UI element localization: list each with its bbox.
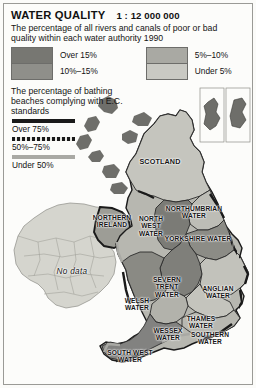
swatch-over-15 bbox=[12, 48, 52, 63]
legend-label-10-15: 10%–15% bbox=[60, 63, 98, 79]
beach-label-50-75: 50%–75% bbox=[11, 142, 123, 152]
legend-label-under-5: Under 5% bbox=[195, 63, 232, 79]
legend-panel: WATER QUALITY 1 : 12 000 000 The percent… bbox=[9, 9, 247, 171]
swatch-under-5 bbox=[147, 63, 187, 79]
water-quality-map-figure: SCOTLAND NORTHERN IRELAND No data NORTHU… bbox=[0, 0, 256, 388]
legend-label-5-10: 5%–10% bbox=[195, 47, 232, 63]
bathing-beach-legend: The percentage of bathing beaches comply… bbox=[11, 86, 123, 171]
beach-legend-row-50-75: 50%–75% bbox=[11, 137, 123, 152]
beach-legend-row-over-75: Over 75% bbox=[11, 119, 123, 134]
map-scale: 1 : 12 000 000 bbox=[116, 10, 179, 21]
title-row: WATER QUALITY 1 : 12 000 000 bbox=[11, 9, 247, 21]
legend-label-over-15: Over 15% bbox=[60, 47, 98, 63]
swatch-stack-right bbox=[146, 47, 188, 80]
swatch-labels-left: Over 15% 10%–15% bbox=[60, 47, 98, 79]
beach-line-over-75 bbox=[12, 119, 75, 123]
region-welsh-water bbox=[122, 252, 168, 302]
beach-label-over-75: Over 75% bbox=[11, 124, 123, 134]
beach-line-under-50 bbox=[12, 155, 75, 159]
page-title: WATER QUALITY bbox=[11, 9, 105, 21]
swatch-stack-left bbox=[11, 47, 53, 80]
swatch-labels-right: 5%–10% Under 5% bbox=[195, 47, 232, 79]
river-quality-legend-column-1: Over 15% 10%–15% bbox=[11, 47, 98, 80]
river-quality-legend: Over 15% 10%–15% 5%–10% Under 5% bbox=[11, 47, 247, 80]
beach-line-50-75 bbox=[12, 137, 75, 141]
river-quality-legend-column-2: 5%–10% Under 5% bbox=[146, 47, 232, 80]
beach-label-under-50: Under 50% bbox=[11, 160, 123, 170]
beach-legend-row-under-50: Under 50% bbox=[11, 155, 123, 170]
bathing-beach-legend-title: The percentage of bathing beaches comply… bbox=[11, 86, 123, 117]
swatch-10-15 bbox=[12, 63, 52, 79]
swatch-5-10 bbox=[147, 48, 187, 63]
figure-subtitle: The percentage of all rivers and canals … bbox=[11, 23, 239, 44]
